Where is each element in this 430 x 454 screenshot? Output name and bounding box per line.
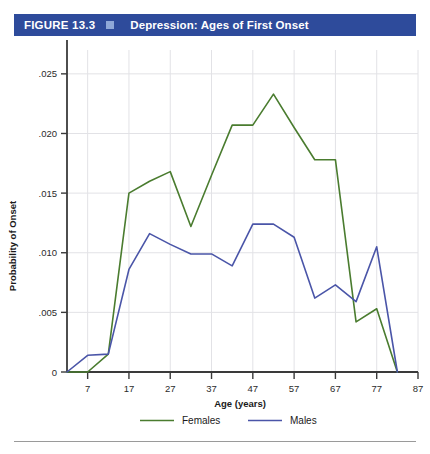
tick-marks — [61, 74, 418, 379]
footer-divider — [14, 441, 416, 442]
square-marker-icon — [106, 21, 114, 29]
x-tick-label: 27 — [165, 383, 176, 394]
x-tick-label: 17 — [124, 383, 135, 394]
axis-titles: Probability of Onset Age (years) — [7, 200, 266, 409]
grid-lines — [67, 50, 418, 372]
y-tick-label: .025 — [39, 68, 58, 79]
legend-label-females: Females — [182, 415, 220, 426]
y-tick-label: 0 — [52, 367, 57, 378]
x-tick-label: 7 — [85, 383, 90, 394]
legend-label-males: Males — [290, 415, 317, 426]
figure-header-bar: FIGURE 13.3 Depression: Ages of First On… — [14, 14, 416, 36]
chart-area: 0.005.010.015.020.025 71727374757677787 … — [0, 36, 430, 432]
y-tick-label: .015 — [39, 188, 58, 199]
x-tick-label: 77 — [371, 383, 382, 394]
x-tick-label: 57 — [289, 383, 300, 394]
axis-lines — [67, 40, 418, 372]
figure-container: FIGURE 13.3 Depression: Ages of First On… — [0, 0, 430, 454]
x-tick-label: 47 — [248, 383, 259, 394]
y-axis-title: Probability of Onset — [7, 200, 18, 291]
figure-number-label: FIGURE 13.3 — [24, 19, 95, 31]
figure-title-label: Depression: Ages of First Onset — [130, 19, 308, 31]
x-axis-title: Age (years) — [214, 398, 266, 409]
data-series — [67, 94, 397, 372]
line-chart: 0.005.010.015.020.025 71727374757677787 … — [0, 36, 430, 432]
x-tick-label: 87 — [413, 383, 424, 394]
y-tick-label: .005 — [39, 307, 58, 318]
x-tick-labels: 71727374757677787 — [85, 383, 423, 394]
series-line-females — [67, 94, 397, 372]
y-tick-label: .010 — [39, 247, 58, 258]
series-line-males — [67, 224, 397, 372]
y-tick-labels: 0.005.010.015.020.025 — [39, 68, 58, 377]
y-tick-label: .020 — [39, 128, 58, 139]
x-tick-label: 37 — [206, 383, 217, 394]
chart-legend: FemalesMales — [140, 415, 317, 426]
x-tick-label: 67 — [330, 383, 341, 394]
